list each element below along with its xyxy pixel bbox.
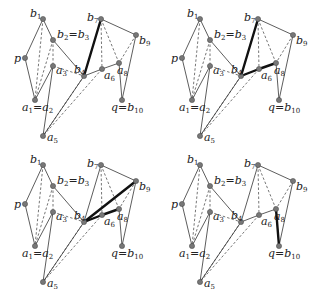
- label-a12: a1=a2: [179, 101, 210, 115]
- label-b9: b9: [296, 34, 308, 48]
- node-b23: [50, 183, 55, 188]
- solid-edge: [25, 204, 35, 246]
- label-a5: a5: [47, 277, 58, 291]
- label-a6: a6: [261, 215, 273, 229]
- node-p: [179, 55, 184, 60]
- solid-edge: [182, 19, 200, 58]
- label-a3: a3: [213, 64, 224, 78]
- label-b1: b1: [30, 7, 42, 21]
- node-b9: [133, 178, 138, 183]
- solid-edge: [200, 76, 241, 136]
- label-a12: a1=a2: [179, 247, 210, 261]
- node-a3: [50, 209, 55, 214]
- node-a5: [197, 279, 202, 284]
- label-b7: b7: [87, 11, 99, 25]
- solid-edge: [279, 181, 293, 246]
- node-b7: [255, 16, 260, 21]
- node-b7: [98, 162, 103, 167]
- node-a3: [207, 63, 212, 68]
- dashed-edge: [43, 215, 102, 282]
- label-a5: a5: [47, 131, 58, 145]
- label-a8: a8: [274, 64, 285, 78]
- solid-edge: [25, 58, 35, 100]
- node-a5: [40, 279, 45, 284]
- dashed-edge: [101, 19, 102, 69]
- solid-edge: [279, 35, 293, 100]
- node-b23: [207, 37, 212, 42]
- dashed-edge: [200, 215, 259, 282]
- label-b4: b4: [74, 209, 86, 223]
- label-a6: a6: [104, 69, 116, 83]
- panel-bottom-right: b1b2=b3pa3a1=a2a5b4a6b7b9a8q=b10: [171, 153, 308, 291]
- label-a3: a3: [56, 210, 67, 224]
- label-a8: a8: [274, 210, 285, 224]
- node-b23: [50, 37, 55, 42]
- solid-edge: [43, 222, 84, 282]
- solid-edge: [122, 35, 136, 100]
- panel-bottom-left: b1b2=b3pa3a1=a2a5b4a6b7b9a8q=b10: [14, 153, 151, 291]
- solid-edge: [25, 19, 43, 58]
- label-a12: a1=a2: [22, 101, 53, 115]
- solid-edge: [84, 165, 101, 222]
- node-b23: [207, 183, 212, 188]
- highlighted-edge: [84, 19, 101, 76]
- node-a3: [207, 209, 212, 214]
- node-b7: [98, 16, 103, 21]
- solid-edge: [200, 222, 241, 282]
- panel-top-left: b1b2=b3pa3a1=a2a5b4a6b7b9a8q=b10: [14, 7, 151, 145]
- label-b1: b1: [187, 153, 199, 167]
- label-p: p: [171, 198, 178, 211]
- diagram-canvas: b1b2=b3pa3a1=a2a5b4a6b7b9a8q=b10b1b2=b3p…: [0, 0, 314, 292]
- label-q: q=b10: [268, 101, 300, 115]
- label-b1: b1: [187, 7, 199, 21]
- label-q: q=b10: [111, 247, 143, 261]
- label-b9: b9: [139, 34, 151, 48]
- label-b4: b4: [231, 209, 243, 223]
- label-p: p: [14, 198, 21, 211]
- label-b7: b7: [244, 157, 256, 171]
- dashed-edge: [200, 69, 259, 136]
- label-b23: b2=b3: [214, 28, 246, 42]
- label-p: p: [14, 52, 21, 65]
- solid-edge: [200, 19, 210, 40]
- label-a6: a6: [261, 69, 273, 83]
- dashed-edge: [258, 19, 259, 69]
- label-b23: b2=b3: [57, 28, 89, 42]
- label-b23: b2=b3: [214, 174, 246, 188]
- label-b9: b9: [139, 180, 151, 194]
- solid-edge: [241, 215, 259, 222]
- dashed-edge: [119, 35, 136, 63]
- node-a5: [197, 133, 202, 138]
- node-p: [179, 201, 184, 206]
- node-p: [22, 55, 27, 60]
- label-a5: a5: [204, 277, 215, 291]
- solid-edge: [43, 165, 53, 186]
- label-b7: b7: [87, 157, 99, 171]
- solid-edge: [200, 165, 210, 186]
- panel-top-right: b1b2=b3pa3a1=a2a5b4a6b7b9a8q=b10: [171, 7, 308, 145]
- label-a8: a8: [117, 210, 128, 224]
- solid-edge: [43, 76, 84, 136]
- label-a3: a3: [213, 210, 224, 224]
- node-b9: [290, 178, 295, 183]
- label-a5: a5: [204, 131, 215, 145]
- label-b1: b1: [30, 153, 42, 167]
- label-p: p: [171, 52, 178, 65]
- label-b9: b9: [296, 180, 308, 194]
- label-b4: b4: [231, 63, 243, 77]
- solid-edge: [241, 165, 258, 222]
- label-a12: a1=a2: [22, 247, 53, 261]
- node-a5: [40, 133, 45, 138]
- node-a3: [50, 63, 55, 68]
- dashed-edge: [43, 69, 102, 136]
- dashed-edge: [276, 35, 293, 63]
- node-p: [22, 201, 27, 206]
- label-a8: a8: [117, 64, 128, 78]
- solid-edge: [182, 58, 192, 100]
- dashed-edge: [119, 181, 136, 209]
- solid-edge: [182, 165, 200, 204]
- label-b23: b2=b3: [57, 174, 89, 188]
- dashed-edge: [276, 181, 293, 209]
- label-q: q=b10: [111, 101, 143, 115]
- label-b4: b4: [74, 63, 86, 77]
